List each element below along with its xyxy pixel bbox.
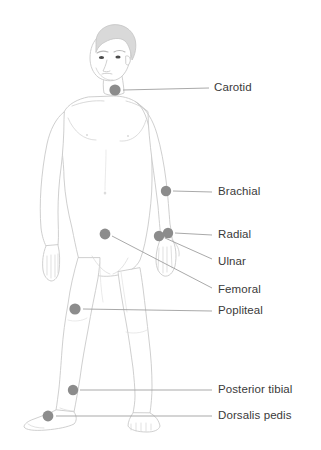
leader-line-popliteal xyxy=(83,309,212,311)
pulse-dot-popliteal xyxy=(69,303,80,314)
pulse-dot-radial xyxy=(163,228,173,238)
pulse-label-dorsalis-pedis: Dorsalis pedis xyxy=(218,410,292,422)
pulse-dot-brachial xyxy=(161,186,171,196)
pulse-dot-carotid xyxy=(109,84,120,95)
pulse-label-radial: Radial xyxy=(218,229,251,241)
nipple-right xyxy=(127,135,129,137)
body-silhouette xyxy=(24,25,179,432)
leader-line-carotid xyxy=(123,88,209,90)
navel xyxy=(104,191,107,194)
nipple-left xyxy=(86,134,88,136)
pulse-dot-dorsalis-pedis xyxy=(43,411,54,422)
leader-line-radial xyxy=(175,233,212,235)
pulse-label-popliteal: Popliteal xyxy=(218,305,263,317)
pulse-dot-ulnar xyxy=(154,231,164,241)
pulse-label-carotid: Carotid xyxy=(214,82,252,94)
pulse-points-diagram: Carotid Brachial Radial Ulnar Femoral Po… xyxy=(0,0,321,450)
right-eye xyxy=(115,56,120,59)
leader-line-brachial xyxy=(173,191,212,192)
right-arm-outline xyxy=(40,112,64,247)
left-hand-outline xyxy=(156,238,176,276)
pulse-label-posterior-tibial: Posterior tibial xyxy=(218,384,292,396)
pulse-label-ulnar: Ulnar xyxy=(218,256,246,268)
ear-outline xyxy=(126,56,130,65)
left-leg-outline xyxy=(118,268,152,415)
pulse-dot-femoral xyxy=(100,229,111,240)
pulse-label-femoral: Femoral xyxy=(218,284,261,296)
left-eye xyxy=(99,56,104,59)
pulse-label-brachial: Brachial xyxy=(218,186,260,198)
pulse-dot-posterior-tibial xyxy=(68,385,78,395)
